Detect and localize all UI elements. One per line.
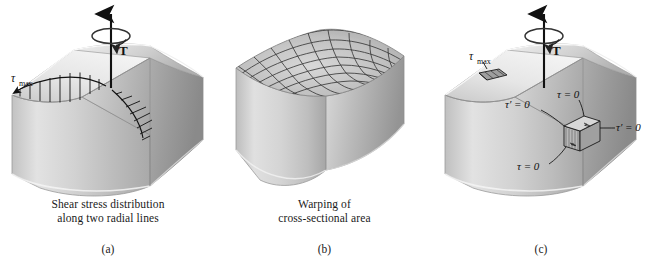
panel-a-caption-line2: along two radial lines	[0, 212, 216, 226]
panel-b-caption: Warping of cross-sectional area	[216, 198, 433, 225]
tau-prime-zero-left-label-c: τ′ = 0	[505, 98, 530, 110]
block-body-c	[445, 44, 636, 196]
panel-b-sublabel: (b)	[216, 243, 433, 255]
panel-c: T τ max	[433, 0, 649, 279]
svg-text:max: max	[19, 79, 33, 88]
svg-text:max: max	[477, 57, 491, 66]
tau-prime-zero-right-label-c: τ′ = 0	[616, 121, 641, 133]
torsion-figure: T	[0, 0, 649, 279]
tau-zero-top-label-c: τ = 0	[557, 88, 580, 100]
panel-a: T	[0, 0, 216, 279]
panel-b-caption-line1: Warping of	[216, 198, 433, 212]
svg-text:τ: τ	[469, 50, 474, 62]
tau-max-label-c: τ max	[469, 50, 491, 66]
panel-b-caption-line2: cross-sectional area	[216, 212, 433, 226]
tau-zero-bottom-label-c: τ = 0	[517, 160, 540, 172]
panel-a-caption-line1: Shear stress distribution	[0, 198, 216, 212]
panel-c-artwork: T τ max	[433, 0, 649, 232]
block-body-a	[12, 44, 203, 196]
panel-c-sublabel: (c)	[433, 243, 649, 255]
torque-label-a: T	[119, 43, 128, 58]
panel-a-caption: Shear stress distribution along two radi…	[0, 198, 216, 225]
panel-b: Warping of cross-sectional area (b)	[216, 0, 433, 279]
svg-text:τ: τ	[11, 72, 16, 84]
panel-a-sublabel: (a)	[0, 243, 216, 255]
tau-max-label-a: τ max	[11, 72, 33, 88]
torque-label-c: T	[552, 43, 561, 58]
